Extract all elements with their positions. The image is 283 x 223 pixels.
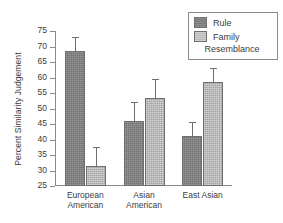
y-axis-tick-mark [50, 93, 55, 94]
legend-item-rule[interactable]: Rule [194, 17, 272, 28]
error-bar [192, 122, 193, 136]
y-axis-tick-mark [50, 31, 55, 32]
y-axis-tick-mark [50, 78, 55, 79]
legend-label-rule: Rule [213, 18, 232, 28]
y-axis-tick: 45 [0, 124, 56, 125]
y-axis-tick-mark [50, 186, 55, 187]
y-axis-tick: 35 [0, 155, 56, 156]
y-axis-tick: 70 [0, 47, 56, 48]
bar [145, 98, 165, 186]
x-axis-tick-label: East Asian [163, 190, 243, 200]
y-axis-tick: 30 [0, 171, 56, 172]
y-axis-tick: 25 [0, 186, 56, 187]
bar [124, 121, 144, 186]
y-axis-tick-label: 60 [38, 72, 47, 83]
y-axis-tick: 60 [0, 78, 56, 79]
legend-label-family: Family [213, 32, 240, 42]
error-bar-cap [72, 37, 79, 38]
y-axis-tick-mark [50, 155, 55, 156]
y-axis-tick-mark [50, 62, 55, 63]
figure-canvas: Percent Similarity Judgement 75706560555… [0, 0, 283, 223]
error-bar [213, 68, 214, 82]
error-bar-cap [152, 79, 159, 80]
legend-label-resemblance: Resemblance [194, 44, 272, 54]
y-axis-tick-label: 55 [38, 87, 47, 98]
error-bar [75, 37, 76, 51]
y-axis-tick-label: 65 [38, 56, 47, 67]
error-bar [96, 147, 97, 166]
legend-item-family-resemblance[interactable]: Family [194, 31, 272, 42]
legend-swatch-family-resemblance [194, 31, 207, 42]
y-axis-tick: 40 [0, 140, 56, 141]
error-bar-cap [93, 147, 100, 148]
y-axis-tick-label: 50 [38, 103, 47, 114]
y-axis-tick-mark [50, 47, 55, 48]
y-axis-tick-label: 70 [38, 41, 47, 52]
y-axis-tick: 55 [0, 93, 56, 94]
y-axis-tick-mark [50, 140, 55, 141]
legend[interactable]: Rule Family Resemblance [188, 12, 278, 60]
y-axis-tick: 75 [0, 31, 56, 32]
y-axis-tick-mark [50, 124, 55, 125]
y-axis-tick: 65 [0, 62, 56, 63]
error-bar [134, 102, 135, 121]
y-axis-tick-mark [50, 109, 55, 110]
y-axis-tick: 50 [0, 109, 56, 110]
y-axis-tick-label: 45 [38, 118, 47, 129]
y-axis-tick-label: 75 [38, 25, 47, 36]
bar [203, 82, 223, 186]
y-axis-tick-label: 30 [38, 165, 47, 176]
legend-swatch-rule [194, 17, 207, 28]
bar [86, 166, 106, 186]
error-bar [155, 79, 156, 98]
bar [65, 51, 85, 186]
bar [182, 136, 202, 186]
error-bar-cap [210, 68, 217, 69]
y-axis-tick-mark [50, 171, 55, 172]
y-axis-tick-label: 35 [38, 149, 47, 160]
error-bar-cap [189, 122, 196, 123]
y-axis-tick-label: 40 [38, 134, 47, 145]
error-bar-cap [131, 102, 138, 103]
